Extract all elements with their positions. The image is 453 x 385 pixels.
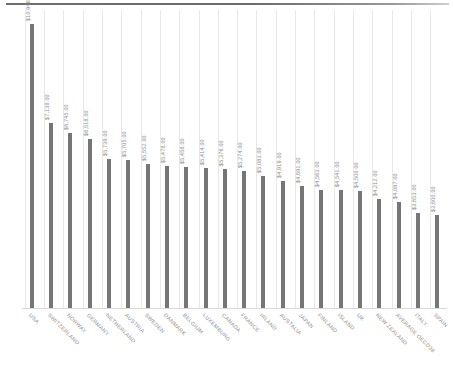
bar-slot: $3,653.00 [408,10,427,308]
bar-value-label: $4,691.00 [295,158,301,184]
bar-value-label: $5,478.00 [160,137,166,163]
bar-value-label: $4,500.00 [353,163,359,189]
bar-slot: $4,087.00 [389,10,408,308]
bar-value-label: $4,919.00 [276,152,282,178]
bar-value-label: $5,274.00 [237,143,243,169]
category-axis: USASWITZERLANDNORWAYGERMANYNETHERLANDAUS… [22,310,447,382]
bar-slot: $4,212.00 [370,10,389,308]
bar-value-label: $5,458.00 [179,138,185,164]
bar-slot: $5,478.00 [157,10,176,308]
category-label: ITALY [414,312,429,327]
bar[interactable] [204,168,208,308]
bar-slot: $5,739.00 [99,10,118,308]
bar[interactable] [416,213,420,308]
bar-slot: $5,458.00 [177,10,196,308]
category-label: SPAIN [433,312,449,328]
bar-value-label: $5,414.00 [199,139,205,165]
category-label: JAPAN [298,312,315,329]
bar[interactable] [319,190,323,308]
bar-slot: $5,414.00 [196,10,215,308]
bar-slot: $4,563.00 [312,10,331,308]
bar-slot: $6,745.00 [61,10,80,308]
bar[interactable] [358,191,362,308]
bar-slot: $4,691.00 [292,10,311,308]
bar-value-label: $5,552.00 [141,135,147,161]
bar-chart: $10,948.00$7,138.00$6,745.00$6,518.00$5,… [0,0,453,385]
bar-value-label: $6,518.00 [83,110,89,136]
bar-value-label: $4,563.00 [314,161,320,187]
bar-slot: $5,552.00 [138,10,157,308]
bar[interactable] [397,202,401,308]
bar-value-label: $6,745.00 [63,104,69,130]
bar-slot: $4,500.00 [350,10,369,308]
bar-slot: $7,138.00 [41,10,60,308]
bar[interactable] [184,167,188,308]
bar[interactable] [107,159,111,308]
bar-value-label: $10,948.00 [25,0,31,21]
bar-slot: $5,083.00 [254,10,273,308]
bar[interactable] [165,166,169,308]
bar[interactable] [146,164,150,308]
bar[interactable] [88,139,92,308]
bar-value-label: $5,705.00 [121,131,127,157]
bar[interactable] [435,215,439,308]
bar-slot: $5,274.00 [235,10,254,308]
bar[interactable] [300,186,304,308]
bar-value-label: $5,376.00 [218,140,224,166]
bar-slot: $5,705.00 [119,10,138,308]
category-label: USA [27,312,40,325]
x-axis-line [22,308,447,309]
category-label: UK [356,312,366,322]
bar-value-label: $5,739.00 [102,131,108,157]
bar[interactable] [261,176,265,308]
bar-value-label: $4,212.00 [372,170,378,196]
bar[interactable] [377,199,381,308]
category-label: IRLAND [259,312,279,332]
bar-value-label: $4,541.00 [334,162,340,188]
bar-slot: $5,376.00 [215,10,234,308]
bar[interactable] [30,24,34,308]
bar-value-label: $7,138.00 [44,94,50,120]
bar[interactable] [49,123,53,308]
bar-value-label: $5,083.00 [256,148,262,174]
category-label: ISLAND [336,312,355,331]
bar[interactable] [68,133,72,308]
top-divider-rule [6,3,449,5]
bar[interactable] [126,160,130,308]
bar[interactable] [339,190,343,308]
bar-slot: $4,919.00 [273,10,292,308]
bar-value-label: $3,600.00 [430,186,436,212]
bar[interactable] [281,181,285,308]
bar-slot: $10,948.00 [22,10,41,308]
bar-slot: $3,600.00 [428,10,447,308]
plot-area: $10,948.00$7,138.00$6,745.00$6,518.00$5,… [22,10,447,308]
bar[interactable] [242,171,246,308]
bar-value-label: $4,087.00 [392,173,398,199]
bar-slot: $6,518.00 [80,10,99,308]
bar[interactable] [223,169,227,308]
bar-value-label: $3,653.00 [411,185,417,211]
bar-slot: $4,541.00 [331,10,350,308]
